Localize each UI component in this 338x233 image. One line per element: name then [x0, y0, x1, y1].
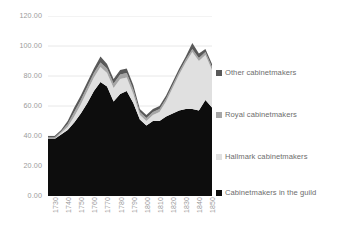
x-axis-tick-label: 1830	[183, 197, 190, 213]
legend-item-label: Other cabinetmakers	[225, 68, 296, 78]
legend-swatch-icon	[216, 70, 222, 76]
x-axis-tick-label: 1740	[65, 197, 72, 213]
legend-item[interactable]: Cabinetmakers in the guild	[216, 188, 336, 198]
x-axis-tick-label: 1840	[196, 197, 203, 213]
legend-item[interactable]: Hallmark cabinetmakers	[216, 152, 336, 162]
plot-svg	[48, 16, 212, 196]
legend-item[interactable]: Other cabinetmakers	[216, 68, 336, 78]
stacked-area-chart: 0.0020.0040.0060.0080.00100.00120.00 173…	[0, 0, 338, 233]
x-axis-tick-label: 1770	[104, 197, 111, 213]
x-axis-tick-label: 1800	[144, 197, 151, 213]
x-axis: 1730174017501760177017801790180018101820…	[48, 197, 212, 233]
legend-swatch-icon	[216, 154, 222, 160]
x-axis-tick-label: 1810	[157, 197, 164, 213]
x-axis-tick-label: 1820	[170, 197, 177, 213]
y-axis-tick-label: 100.00	[19, 42, 42, 50]
legend-item-label: Hallmark cabinetmakers	[225, 152, 308, 162]
plot-area	[48, 16, 212, 196]
y-axis-tick-label: 120.00	[19, 12, 42, 20]
y-axis-tick-label: 80.00	[24, 72, 43, 80]
x-axis-tick-label: 1780	[118, 197, 125, 213]
legend-item-label: Cabinetmakers in the guild	[225, 188, 316, 198]
chart-legend: Other cabinetmakersRoyal cabinetmakersHa…	[216, 60, 338, 220]
y-axis-tick-label: 40.00	[24, 132, 43, 140]
y-axis-tick-label: 0.00	[28, 192, 42, 200]
y-axis-tick-label: 20.00	[24, 162, 43, 170]
legend-swatch-icon	[216, 112, 222, 118]
y-axis: 0.0020.0040.0060.0080.00100.00120.00	[0, 0, 46, 233]
legend-item-label: Royal cabinetmakers	[225, 110, 297, 120]
y-axis-tick-label: 60.00	[24, 102, 43, 110]
legend-swatch-icon	[216, 190, 222, 196]
x-axis-tick-label: 1730	[52, 197, 59, 213]
x-axis-tick-label: 1790	[131, 197, 138, 213]
legend-item[interactable]: Royal cabinetmakers	[216, 110, 336, 120]
x-axis-tick-label: 1750	[78, 197, 85, 213]
x-axis-tick-label: 1760	[91, 197, 98, 213]
